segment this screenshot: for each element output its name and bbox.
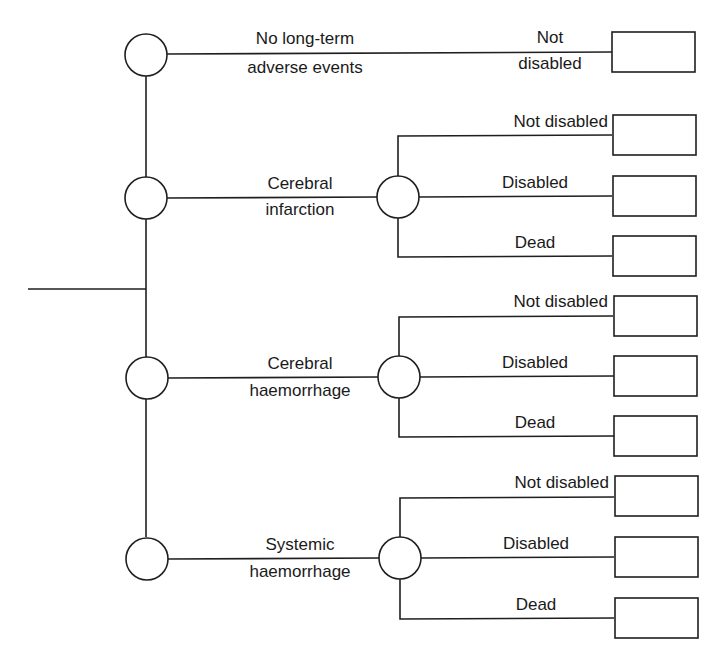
chance-node-cerebral-infarction[interactable] <box>125 177 167 219</box>
chance-node-cerebral-haemorrhage[interactable] <box>126 357 168 399</box>
branch-line-cerebral-infarction <box>167 197 377 198</box>
outcome-label-infarction-not-disabled: Not disabled <box>440 112 608 132</box>
sub-branch-infarction-disabled <box>419 196 612 197</box>
sub-branch-systemic-haemorrhage-disabled <box>421 557 614 558</box>
outcome-label-infarction-disabled: Disabled <box>480 173 590 193</box>
chance-node-cerebral-haemorrhage-outcome[interactable] <box>378 356 420 398</box>
event-label-infarction-line1: Cerebral <box>230 174 370 194</box>
terminal-box-infarction-not-disabled[interactable] <box>613 115 696 155</box>
outcome-label-systemic-haemorrhage-dead: Dead <box>491 595 581 615</box>
outcome-label-cerebral-haemorrhage-dead: Dead <box>490 413 580 433</box>
terminal-box-infarction-dead[interactable] <box>613 236 696 276</box>
outcome-label-cerebral-haemorrhage-disabled: Disabled <box>480 353 590 373</box>
chance-node-systemic-haemorrhage-outcome[interactable] <box>379 537 421 579</box>
terminal-box-cerebral-haemorrhage-dead[interactable] <box>614 416 697 456</box>
outcome-label-systemic-haemorrhage-not-disabled: Not disabled <box>441 473 609 493</box>
sub-branch-cerebral-haemorrhage-disabled <box>420 376 614 377</box>
sub-branch-systemic-haemorrhage-not-disabled <box>400 497 614 537</box>
event-label-infarction-line2: infarction <box>230 200 370 220</box>
event-label-cerebral-haemorrhage-line1: Cerebral <box>225 354 375 374</box>
outcome-label-infarction-dead: Dead <box>490 233 580 253</box>
sub-branch-infarction-not-disabled <box>398 135 612 176</box>
event-label-systemic-haemorrhage-line1: Systemic <box>225 535 375 555</box>
chance-node-systemic-haemorrhage[interactable] <box>126 538 168 580</box>
terminal-box-infarction-disabled[interactable] <box>613 176 696 216</box>
terminal-box-cerebral-haemorrhage-disabled[interactable] <box>614 356 697 396</box>
outcome-label-no-adverse-line1: Not <box>500 28 600 48</box>
branch-line-cerebral-haemorrhage <box>168 377 378 378</box>
terminal-box-systemic-haemorrhage-disabled[interactable] <box>615 537 698 577</box>
event-label-cerebral-haemorrhage-line2: haemorrhage <box>225 381 375 401</box>
terminal-box-systemic-haemorrhage-not-disabled[interactable] <box>615 476 698 516</box>
chance-node-infarction-outcome[interactable] <box>377 176 419 218</box>
outcome-label-cerebral-haemorrhage-not-disabled: Not disabled <box>440 292 608 312</box>
chance-node-no-adverse-events[interactable] <box>125 34 167 76</box>
event-label-no-adverse-line2: adverse events <box>215 58 395 78</box>
terminal-box-systemic-haemorrhage-dead[interactable] <box>615 598 698 638</box>
outcome-label-systemic-haemorrhage-disabled: Disabled <box>481 534 591 554</box>
sub-branch-cerebral-haemorrhage-not-disabled <box>399 316 613 356</box>
event-label-no-adverse-line1: No long-term <box>215 29 395 49</box>
outcome-label-no-adverse-line2: disabled <box>500 54 600 74</box>
branch-line-systemic-haemorrhage <box>168 558 379 559</box>
event-label-systemic-haemorrhage-line2: haemorrhage <box>225 562 375 582</box>
terminal-box-no-adverse-not-disabled[interactable] <box>612 32 695 72</box>
decision-tree-canvas <box>0 0 725 655</box>
terminal-box-cerebral-haemorrhage-not-disabled[interactable] <box>614 296 697 336</box>
